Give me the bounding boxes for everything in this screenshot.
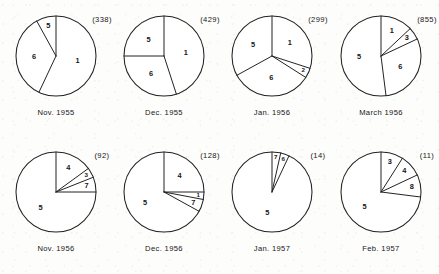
slice-label: 6 xyxy=(32,52,36,61)
slice-label: 1 xyxy=(288,38,292,47)
slice-label: 2 xyxy=(301,66,305,73)
slice-label: 8 xyxy=(410,182,414,191)
pie-caption: Feb. 1957 xyxy=(362,244,399,253)
slice-label: 6 xyxy=(269,73,273,82)
slice-label: 3 xyxy=(388,157,392,166)
pie-chart-march-1956: 1365(855)March 1956 xyxy=(327,0,436,137)
slice-label: 1 xyxy=(390,26,394,35)
slice-label: 1 xyxy=(75,56,79,65)
pie-chart-figure: 165(338)Nov. 1955165(429)Dec. 19551265(2… xyxy=(0,0,439,274)
slice-label: 5 xyxy=(46,21,50,30)
slice-label: 3 xyxy=(405,33,409,42)
pie-caption: Jan. 1957 xyxy=(254,244,291,253)
slice-label: 6 xyxy=(398,62,402,71)
slice-label: 5 xyxy=(251,40,255,49)
pie-chart-dec-1955: 165(429)Dec. 1955 xyxy=(110,0,219,137)
pie-caption: Dec. 1956 xyxy=(145,244,183,253)
pie-total-label: (855) xyxy=(417,15,437,24)
pie-total-label: (429) xyxy=(200,15,220,24)
pie-chart-dec-1956: 4175(128)Dec. 1956 xyxy=(110,136,219,273)
slice-label: 6 xyxy=(281,155,285,162)
pie-caption: Nov. 1956 xyxy=(37,244,74,253)
pie-total-label: (11) xyxy=(420,151,435,160)
pie-total-label: (92) xyxy=(94,151,109,160)
pie-total-label: (299) xyxy=(308,15,328,24)
slice-label: 3 xyxy=(84,171,88,178)
pie-total-label: (14) xyxy=(310,151,325,160)
slice-label: 5 xyxy=(265,208,269,217)
slice-label: 1 xyxy=(184,48,188,57)
pie-caption: Dec. 1955 xyxy=(145,108,183,117)
pie-total-label: (128) xyxy=(200,151,220,160)
pie-chart-jan-1957: 765(14)Jan. 1957 xyxy=(218,136,327,273)
pie-caption: Nov. 1955 xyxy=(37,108,74,117)
slice-label: 7 xyxy=(85,181,89,190)
pie-caption: Jan. 1956 xyxy=(254,108,291,117)
pie-chart-nov-1955: 165(338)Nov. 1955 xyxy=(2,0,111,137)
slice-label: 6 xyxy=(149,69,153,78)
pie-chart-feb-1957: 3485(11)Feb. 1957 xyxy=(327,136,436,273)
slice-label: 7 xyxy=(274,153,278,160)
slice-label: 5 xyxy=(362,202,366,211)
slice-label: 5 xyxy=(143,198,147,207)
slice-label: 5 xyxy=(146,35,150,44)
slice-label: 5 xyxy=(357,52,361,61)
slice-label: 7 xyxy=(191,198,195,207)
pie-chart-nov-1956: 4375(92)Nov. 1956 xyxy=(2,136,111,273)
slice-label: 5 xyxy=(38,203,42,212)
pie-chart-jan-1956: 1265(299)Jan. 1956 xyxy=(218,0,327,137)
pie-total-label: (338) xyxy=(92,15,112,24)
slice-label: 1 xyxy=(197,191,201,198)
pie-caption: March 1956 xyxy=(359,108,403,117)
